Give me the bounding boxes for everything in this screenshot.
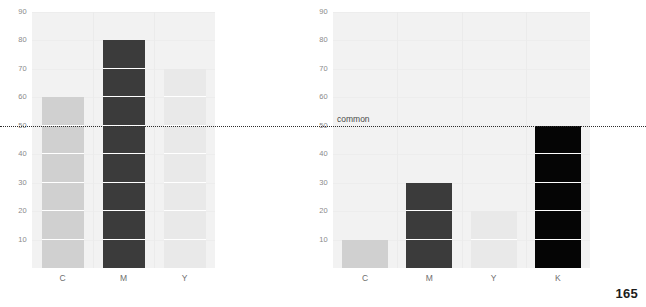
bar-segment-divider: [406, 210, 452, 211]
bar-c[interactable]: [342, 240, 388, 268]
y-axis-tick-label: 10: [306, 236, 328, 244]
bar-chart-right: 908070605040302010CMYK: [0, 0, 646, 307]
bar-segment-divider: [535, 182, 581, 183]
y-axis-tick-label: 60: [306, 93, 328, 101]
common-threshold-label: common: [337, 114, 370, 124]
x-axis-label-y: Y: [474, 273, 514, 283]
page-number: 165: [615, 286, 638, 301]
bar-segment-divider: [471, 239, 517, 240]
bar-k[interactable]: [535, 126, 581, 268]
x-axis-label-k: K: [538, 273, 578, 283]
gridline-vertical: [526, 12, 527, 268]
gridline-vertical: [462, 12, 463, 268]
x-axis-label-c: C: [345, 273, 385, 283]
gridline-vertical: [397, 12, 398, 268]
y-axis-tick-label: 30: [306, 179, 328, 187]
bar-m[interactable]: [406, 183, 452, 268]
y-axis-tick-label: 70: [306, 65, 328, 73]
y-axis-tick-label: 80: [306, 36, 328, 44]
bar-y[interactable]: [471, 211, 517, 268]
y-axis-tick-label: 90: [306, 8, 328, 16]
plot-area-right: [333, 12, 590, 268]
bar-segment-divider: [535, 239, 581, 240]
bar-segment-divider: [535, 210, 581, 211]
bar-segment-divider: [406, 239, 452, 240]
bar-segment-divider: [535, 153, 581, 154]
y-axis-tick-label: 20: [306, 207, 328, 215]
figure-page: 908070605040302010CMY 908070605040302010…: [0, 0, 646, 307]
common-threshold-line: [0, 126, 646, 127]
x-axis-label-m: M: [409, 273, 449, 283]
y-axis-tick-label: 40: [306, 150, 328, 158]
